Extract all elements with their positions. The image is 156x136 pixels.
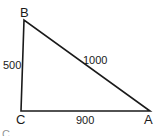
side-length-ab: 1000 xyxy=(83,54,107,66)
triangle-diagram: B C A 500 1000 900 C xyxy=(0,0,156,136)
side-length-bc: 500 xyxy=(3,59,21,71)
vertex-label-c: C xyxy=(16,112,25,127)
vertex-label-a: A xyxy=(144,112,153,127)
side-length-ca: 900 xyxy=(76,114,94,126)
vertex-label-b: B xyxy=(20,5,29,20)
caption-fragment: C xyxy=(2,128,10,136)
